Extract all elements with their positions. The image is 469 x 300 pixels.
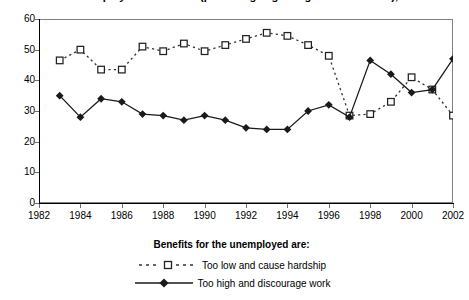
x-axis-tick-label: 1996 [309, 210, 349, 221]
series-2 [56, 55, 453, 133]
y-axis-tick [35, 19, 39, 20]
plot-series-layer [39, 19, 453, 203]
legend-label-too-high: Too high and discourage work [198, 278, 331, 289]
y-axis-tick [35, 80, 39, 81]
data-point-marker [180, 116, 188, 124]
legend-key-dotted-square-icon [137, 258, 199, 272]
data-point-marker [160, 48, 167, 55]
legend-item-too-high: Too high and discourage work [0, 274, 463, 292]
data-point-marker [221, 116, 229, 124]
data-point-marker [284, 33, 291, 40]
data-point-marker [222, 42, 229, 49]
x-axis-tick [122, 204, 123, 208]
data-point-marker [119, 66, 126, 73]
x-axis-tick [329, 204, 330, 208]
x-axis-tick-label: 1984 [60, 210, 100, 221]
data-point-marker [201, 48, 208, 55]
data-point-marker [201, 112, 209, 120]
x-axis-tick [246, 204, 247, 208]
data-point-marker [450, 112, 453, 119]
data-point-marker [242, 124, 250, 132]
x-axis-tick [163, 204, 164, 208]
data-point-marker [118, 98, 126, 106]
x-axis-tick [287, 204, 288, 208]
x-axis-tick-label: 1992 [226, 210, 266, 221]
data-point-marker [263, 126, 271, 134]
chart-legend: Benefits for the unemployed are: Too low… [0, 238, 463, 292]
x-axis-tick [453, 204, 454, 208]
data-point-marker [159, 112, 167, 120]
x-axis-tick-label: 2002 [433, 210, 469, 221]
x-axis-tick [205, 204, 206, 208]
x-axis-tick-label: 1986 [102, 210, 142, 221]
data-point-marker [243, 36, 250, 43]
y-axis-tick [35, 50, 39, 51]
data-point-marker [263, 30, 270, 37]
y-axis-tick-label: 0 [9, 198, 35, 208]
x-axis-tick [412, 204, 413, 208]
y-axis-tick-label: 30 [9, 106, 35, 116]
x-axis-tick [80, 204, 81, 208]
data-point-marker [325, 101, 333, 109]
x-axis-tick-label: 1994 [267, 210, 307, 221]
data-point-marker [181, 40, 188, 47]
data-point-marker [367, 111, 374, 118]
x-axis-tick-label: 1998 [350, 210, 390, 221]
data-point-marker [56, 57, 63, 64]
data-point-marker [139, 110, 147, 118]
x-axis-tick-label: 1988 [143, 210, 183, 221]
x-axis-tick [39, 204, 40, 208]
legend-item-too-low: Too low and cause hardship [0, 256, 463, 274]
x-axis-tick-label: 1982 [19, 210, 59, 221]
y-axis-tick [35, 142, 39, 143]
data-point-marker [77, 46, 84, 53]
y-axis-tick-label: 20 [9, 137, 35, 147]
data-point-marker [326, 53, 333, 60]
y-axis-tick-label: 60 [9, 14, 35, 24]
y-axis-tick-label: 40 [9, 75, 35, 85]
data-point-marker [408, 74, 415, 81]
x-axis-tick-label: 1990 [185, 210, 225, 221]
y-axis-tick [35, 172, 39, 173]
legend-key-solid-diamond-icon [133, 276, 195, 290]
data-point-marker [366, 57, 374, 65]
x-axis-tick [370, 204, 371, 208]
data-point-marker [139, 43, 146, 50]
data-point-marker [305, 42, 312, 49]
legend-title: Benefits for the unemployed are: [0, 238, 463, 251]
x-axis-tick-label: 2000 [392, 210, 432, 221]
chart-title: Attitudes to unemployment benefits (perc… [0, 0, 463, 3]
data-point-marker [388, 99, 395, 106]
y-axis-tick-label: 10 [9, 167, 35, 177]
y-axis-tick [35, 111, 39, 112]
data-point-marker [98, 66, 105, 73]
y-axis-line [39, 19, 40, 204]
legend-label-too-low: Too low and cause hardship [202, 260, 326, 271]
y-axis-tick-label: 50 [9, 45, 35, 55]
